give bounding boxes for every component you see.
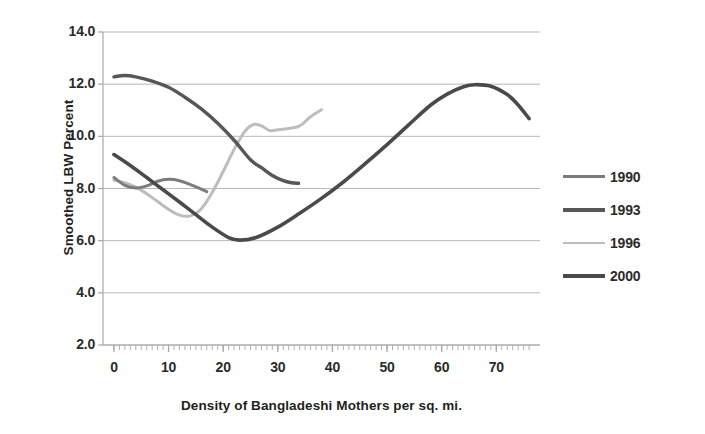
x-axis-tick-label: 10 — [149, 359, 189, 375]
y-axis-title-wrapper: Smoothed LBW Percent — [30, 60, 54, 300]
y-axis-tick-label: 14.0 — [37, 23, 95, 39]
legend-item-label: 2000 — [610, 268, 640, 284]
legend-line-swatch — [563, 242, 605, 244]
x-axis-tick-label: 50 — [367, 359, 407, 375]
legend-item-label: 1996 — [610, 235, 640, 251]
legend-item-2000[interactable]: 2000 — [563, 259, 693, 292]
x-axis-title: Density of Bangladeshi Mothers per sq. m… — [103, 398, 540, 413]
x-axis-tick-label: 20 — [203, 359, 243, 375]
x-axis-tick-label: 30 — [258, 359, 298, 375]
chart-legend: 1990199319962000 — [563, 160, 693, 292]
x-axis-tick-label: 0 — [94, 359, 134, 375]
legend-line-swatch — [563, 208, 605, 212]
x-axis-tick-label: 40 — [312, 359, 352, 375]
series-line-2000 — [114, 85, 529, 240]
series-line-1996 — [114, 110, 322, 217]
legend-item-1993[interactable]: 1993 — [563, 193, 693, 226]
y-axis-tick-label: 2.0 — [37, 336, 95, 352]
legend-item-1996[interactable]: 1996 — [563, 226, 693, 259]
y-axis-title: Smoothed LBW Percent — [61, 48, 76, 308]
legend-item-1990[interactable]: 1990 — [563, 160, 693, 193]
chart-container: 14.012.010.08.06.04.02.0 010203040506070… — [0, 0, 705, 434]
x-axis-tick-label: 60 — [422, 359, 462, 375]
legend-item-label: 1990 — [610, 169, 640, 185]
legend-line-swatch — [563, 274, 605, 278]
legend-item-label: 1993 — [610, 202, 640, 218]
legend-line-swatch — [563, 175, 605, 178]
x-axis-tick-label: 70 — [476, 359, 516, 375]
